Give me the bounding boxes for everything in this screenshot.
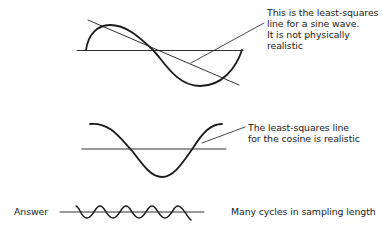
sine-annotation: This is the least-squares line for a sin… xyxy=(267,7,378,51)
cosine-annotation: The least-squares line for the cosine is… xyxy=(248,122,360,144)
sine-annotation-leader xyxy=(191,23,264,63)
sine-annotation-line-1: This is the least-squares xyxy=(267,7,378,18)
cosine-annotation-line-2: for the cosine is realistic xyxy=(248,133,360,144)
answer-wave-curve xyxy=(76,206,191,220)
sine-annotation-line-3: It is not physically xyxy=(267,29,378,40)
cosine-annotation-line-1: The least-squares line xyxy=(248,122,360,133)
sine-annotation-line-2: line for a sine wave. xyxy=(267,18,378,29)
answer-annotation: Many cycles in sampling length xyxy=(231,206,376,217)
answer-label: Answer xyxy=(14,206,48,217)
sine-least-squares-line xyxy=(88,20,239,85)
sine-annotation-line-4: realistic xyxy=(267,40,378,51)
cosine-wave-curve xyxy=(90,124,222,177)
sine-wave-curve xyxy=(86,25,242,86)
